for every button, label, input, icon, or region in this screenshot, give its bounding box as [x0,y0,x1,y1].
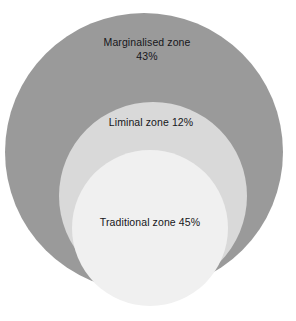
label-marginalised-percent: 43% [104,49,191,63]
label-marginalised-zone: Marginalised zone 43% [104,36,191,63]
label-traditional-text: Traditional zone 45% [100,216,200,230]
label-liminal-text: Liminal zone 12% [109,116,193,130]
zones-diagram: Marginalised zone 43% Liminal zone 12% T… [0,0,296,321]
label-traditional-zone: Traditional zone 45% [100,216,200,230]
label-liminal-zone: Liminal zone 12% [109,116,193,130]
label-marginalised-name: Marginalised zone [104,36,191,50]
